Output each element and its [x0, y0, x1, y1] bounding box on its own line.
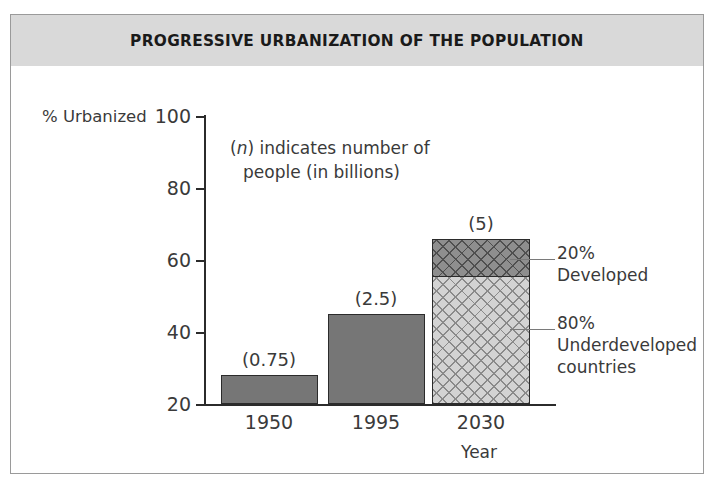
annotation-line-1-rest: ) indicates number of: [247, 138, 429, 158]
plot-area: % Urbanized 100 80 60 40 20 (n) indicate…: [11, 66, 705, 475]
x-tick-label-2030: 2030: [421, 411, 541, 433]
leader-line-developed: [510, 259, 555, 260]
x-tick-label-1950: 1950: [209, 411, 329, 433]
callout-underdeveloped-percent: 80%: [557, 313, 697, 335]
chart-title: PROGRESSIVE URBANIZATION OF THE POPULATI…: [130, 31, 584, 50]
y-tick-label-60: 60: [135, 251, 191, 270]
annotation-n-italic: n: [237, 138, 248, 158]
chart-title-band: PROGRESSIVE URBANIZATION OF THE POPULATI…: [11, 15, 703, 66]
callout-underdeveloped-name: Underdeveloped: [557, 335, 697, 357]
callout-developed-name: Developed: [557, 265, 648, 287]
bar-2030-segment-developed[interactable]: [432, 239, 530, 277]
figure-frame: PROGRESSIVE URBANIZATION OF THE POPULATI…: [10, 14, 704, 474]
chart-annotation: (n) indicates number of people (in billi…: [230, 137, 430, 185]
y-tick-label-wrap-20: 20: [131, 395, 191, 415]
y-tick-label-100: 100: [135, 107, 191, 126]
y-tick-label-wrap-80: 80: [131, 179, 191, 199]
y-tick-mark-20: [196, 404, 205, 406]
annotation-paren-open: (: [230, 138, 237, 158]
y-tick-mark-40: [196, 332, 205, 334]
callout-underdeveloped: 80% Underdeveloped countries: [557, 313, 697, 378]
y-tick-label-wrap-40: 40: [131, 323, 191, 343]
x-axis-title: Year: [461, 442, 497, 462]
y-tick-label-80: 80: [135, 179, 191, 198]
bar-value-label-1995: (2.5): [306, 288, 446, 309]
callout-developed-percent: 20%: [557, 243, 648, 265]
callout-underdeveloped-name-2: countries: [557, 357, 697, 379]
y-tick-label-20: 20: [135, 395, 191, 414]
y-tick-label-wrap-100: 100: [131, 107, 191, 127]
bar-1995[interactable]: [328, 314, 425, 404]
y-tick-label-40: 40: [135, 323, 191, 342]
x-axis-line: [204, 404, 556, 406]
y-tick-mark-80: [196, 188, 205, 190]
leader-line-underdeveloped: [510, 329, 555, 330]
x-tick-label-1995: 1995: [316, 411, 436, 433]
bar-value-label-2030: (5): [411, 213, 551, 234]
bar-value-label-1950: (0.75): [199, 349, 339, 370]
y-tick-label-wrap-60: 60: [131, 251, 191, 271]
y-tick-mark-60: [196, 260, 205, 262]
bar-1950[interactable]: [221, 375, 318, 404]
annotation-line-2: people (in billions): [243, 161, 430, 185]
annotation-line-1: (n) indicates number of: [230, 137, 430, 161]
y-tick-mark-100: [196, 116, 205, 118]
callout-developed: 20% Developed: [557, 243, 648, 287]
bar-2030-segment-underdeveloped[interactable]: [432, 276, 530, 404]
